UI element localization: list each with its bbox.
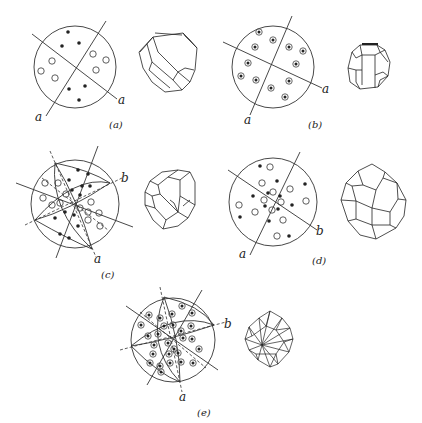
dashed-lines-e	[120, 287, 226, 392]
stereogram-c	[16, 146, 133, 258]
axis-label-e-a: a	[179, 390, 186, 404]
axis-label-c-b: b	[121, 171, 129, 185]
caption-e: (e)	[197, 407, 211, 418]
crystal-a	[139, 33, 197, 92]
caption-c: (c)	[101, 269, 115, 280]
panel-d: b a (d)	[228, 152, 406, 266]
axis-label-b-left: a	[244, 113, 251, 127]
panel-c: b a (c)	[16, 146, 195, 280]
axis-label-c-a: a	[94, 252, 101, 266]
axis-label-a-right: a	[118, 93, 125, 107]
axis-label-e-b: b	[224, 317, 232, 331]
crystal-e	[245, 311, 293, 367]
crystal-c	[145, 170, 195, 229]
panel-b: a a (b)	[223, 16, 390, 130]
crystal-b	[348, 44, 390, 89]
caption-b: (b)	[308, 119, 322, 130]
stereogram-a	[32, 21, 117, 116]
caption-a: (a)	[109, 119, 123, 130]
crystal-d	[341, 164, 406, 239]
panel-e: b a (e)	[120, 287, 293, 418]
axis-label-a-left: a	[35, 110, 42, 124]
caption-d: (d)	[312, 255, 326, 266]
axis-label-b-right: a	[322, 82, 329, 96]
poles-d	[236, 164, 309, 239]
crystal-symmetry-figure: a a (a)	[0, 0, 422, 423]
axis-label-d-a: a	[239, 247, 246, 261]
stereogram-b	[223, 16, 322, 115]
panel-a: a a (a)	[32, 21, 197, 130]
stereogram-e	[126, 290, 218, 385]
axis-label-d-b: b	[316, 224, 324, 238]
